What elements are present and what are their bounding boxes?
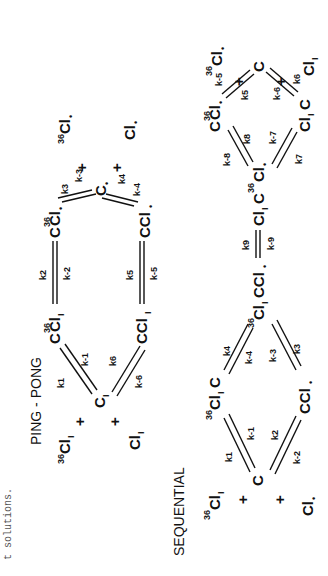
svg-text:•: • — [260, 163, 270, 166]
svg-text:Cl: Cl — [299, 501, 316, 516]
pp-cl-product: Cl • — [121, 121, 141, 140]
seq-rate-km3: k-3 — [268, 349, 278, 362]
pp-rate-km6: k-6 — [134, 375, 144, 388]
seq-ccl-dot: CCl • — [296, 381, 316, 414]
svg-text:CCl: CCl — [250, 272, 267, 298]
svg-text:I: I — [216, 391, 226, 394]
svg-text:•: • — [131, 121, 141, 124]
seq-rate-km6: k-6 — [272, 87, 282, 100]
seq-rate-k8: k8 — [242, 134, 252, 144]
svg-text:I: I — [143, 311, 153, 314]
pp-ccl-I: CCl I — [133, 311, 153, 344]
sequential-title: SEQUENTIAL — [171, 467, 187, 556]
svg-text:C: C — [206, 377, 223, 388]
svg-text:•: • — [146, 205, 156, 208]
pp-arrow-k5 — [140, 241, 144, 304]
seq-plus-2: + — [271, 495, 288, 504]
ping-pong-title: PING - PONG — [28, 357, 44, 445]
reaction-scheme-diagram: t solutions. PING - PONG 36 Cl I + C I +… — [0, 0, 328, 576]
svg-text:I: I — [306, 113, 316, 116]
pp-c-I: C I — [91, 394, 111, 408]
pp-rate-k6: k6 — [108, 356, 118, 366]
svg-text:I: I — [260, 301, 270, 304]
svg-text:•: • — [216, 101, 226, 104]
seq-c-product: C — [250, 61, 267, 72]
svg-text:C: C — [296, 99, 313, 110]
svg-text:•: • — [260, 265, 270, 268]
pp-cl36-reactant: 36 Cl I — [56, 435, 76, 464]
seq-rate-k1: k1 — [224, 452, 234, 462]
svg-text:36: 36 — [202, 510, 212, 520]
svg-text:Cl: Cl — [250, 305, 267, 320]
pp-ccl-dot: CCl • — [136, 205, 156, 238]
svg-text:Cl: Cl — [46, 317, 63, 332]
pp-c36cl-I: C 36 Cl I — [42, 313, 66, 344]
seq-cl-I-c36cl-dot: Cl I C 36 Cl • — [246, 163, 270, 226]
pp-cl36-product: 36 Cl • — [56, 115, 76, 144]
pp-rate-k3: k3 — [60, 184, 70, 194]
pp-rate-k2: k2 — [38, 270, 48, 280]
svg-text:Cl: Cl — [126, 435, 143, 450]
svg-text:Cl: Cl — [206, 395, 223, 410]
svg-text:C: C — [46, 227, 63, 238]
pp-rate-km5: k-5 — [149, 267, 159, 280]
svg-text:Cl: Cl — [56, 439, 73, 454]
seq-rate-k4: k4 — [222, 346, 232, 356]
seq-rate-k5: k5 — [240, 90, 250, 100]
svg-text:•: • — [309, 497, 319, 500]
seq-rate-km2: k-2 — [292, 451, 302, 464]
seq-rate-km4: k-4 — [244, 351, 254, 364]
svg-text:Cl: Cl — [56, 119, 73, 134]
seq-arrow-k2 — [270, 416, 301, 474]
svg-text:•: • — [306, 381, 316, 384]
svg-text:Cl: Cl — [300, 61, 317, 76]
pp-rate-k4: k4 — [117, 174, 127, 184]
seq-cl36-I-ccl-dot: 36 Cl I CCl • — [246, 265, 270, 328]
svg-text:•: • — [56, 207, 66, 210]
svg-text:C: C — [250, 193, 267, 204]
svg-text:Cl: Cl — [250, 167, 267, 182]
caption-text: t solutions. — [3, 488, 14, 560]
seq-rate-k2: k2 — [270, 430, 280, 440]
svg-text:I: I — [101, 394, 111, 397]
pp-plus-3: + — [73, 163, 90, 172]
svg-text:Cl: Cl — [208, 51, 225, 66]
seq-rate-km5: k-5 — [214, 73, 224, 86]
seq-cl-product: Cl I — [300, 57, 320, 76]
seq-arrow-k1 — [224, 414, 255, 472]
svg-text:36: 36 — [56, 134, 66, 144]
seq-plus-1: + — [234, 495, 251, 504]
svg-text:CCl: CCl — [133, 318, 150, 344]
svg-text:C: C — [46, 333, 63, 344]
pp-rate-km2: k-2 — [62, 267, 72, 280]
seq-cl36-product: 36 Cl • — [204, 47, 228, 76]
svg-text:C: C — [92, 185, 109, 196]
seq-cl36-reactant: 36 Cl I — [202, 491, 226, 520]
pp-rate-k1: k1 — [56, 378, 66, 388]
seq-plus-out-2: + — [272, 77, 289, 86]
svg-text:I: I — [56, 313, 66, 316]
svg-text:CCl: CCl — [136, 212, 153, 238]
svg-text:Cl: Cl — [206, 495, 223, 510]
seq-rate-k3: k3 — [292, 344, 302, 354]
svg-text:•: • — [218, 47, 228, 50]
pp-plus-4: + — [108, 163, 125, 172]
svg-text:36: 36 — [246, 183, 256, 193]
seq-cl-reactant: Cl • — [299, 497, 319, 516]
svg-text:Cl: Cl — [121, 125, 138, 140]
pp-plus-1: + — [71, 417, 88, 426]
rotated-figure: t solutions. PING - PONG 36 Cl I + C I +… — [0, 0, 328, 576]
svg-text:I: I — [66, 435, 76, 438]
pp-arrow-k6 — [112, 346, 145, 396]
svg-text:•: • — [102, 182, 112, 185]
svg-text:Cl: Cl — [296, 117, 313, 132]
seq-c36cl-dot: C 36 Cl • — [202, 101, 226, 132]
seq-rate-km1: k-1 — [246, 427, 256, 440]
svg-text:I: I — [136, 431, 146, 434]
svg-text:Cl: Cl — [206, 105, 223, 120]
pp-plus-2: + — [106, 417, 123, 426]
svg-text:36: 36 — [204, 66, 214, 76]
seq-rate-km7: k-7 — [268, 131, 278, 144]
svg-text:CCl: CCl — [296, 388, 313, 414]
svg-text:Cl: Cl — [46, 211, 63, 226]
